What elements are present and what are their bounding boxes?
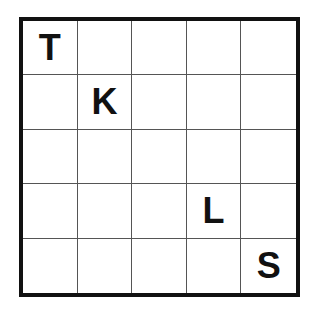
grid-cell-r4c4[interactable]: S [241,239,296,293]
grid-cell-r2c3[interactable] [187,130,242,184]
grid-cell-r2c2[interactable] [132,130,187,184]
grid-cell-r3c2[interactable] [132,184,187,238]
grid-cell-r0c3[interactable] [187,21,242,75]
grid-cell-r3c3[interactable]: L [187,184,242,238]
grid-cell-r4c1[interactable] [78,239,133,293]
grid-cell-r3c1[interactable] [78,184,133,238]
grid-cell-r0c2[interactable] [132,21,187,75]
puzzle-grid: T K L S [19,17,300,297]
grid-cell-r1c4[interactable] [241,75,296,129]
grid-cell-r2c1[interactable] [78,130,133,184]
grid-cell-r1c3[interactable] [187,75,242,129]
grid-cell-r0c0[interactable]: T [23,21,78,75]
grid-cell-r3c0[interactable] [23,184,78,238]
grid-cell-r0c4[interactable] [241,21,296,75]
grid-cell-r1c0[interactable] [23,75,78,129]
grid-cell-r4c2[interactable] [132,239,187,293]
grid-cell-r2c0[interactable] [23,130,78,184]
grid-cell-r2c4[interactable] [241,130,296,184]
grid-cell-r3c4[interactable] [241,184,296,238]
grid-cell-r4c0[interactable] [23,239,78,293]
grid-cell-r1c2[interactable] [132,75,187,129]
grid-cell-r0c1[interactable] [78,21,133,75]
grid-cell-r4c3[interactable] [187,239,242,293]
grid-cell-r1c1[interactable]: K [78,75,133,129]
